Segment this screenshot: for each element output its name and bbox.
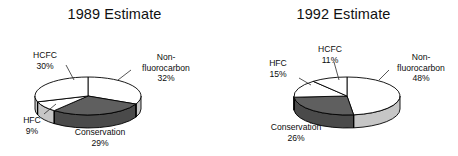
callout-label-line2: fluorocarbon [386, 63, 456, 74]
callout-percent: 26% [253, 133, 339, 144]
callout-conservation-1992: Conservation 26% [253, 122, 339, 143]
callout-label: HFC [12, 115, 52, 126]
callout-percent: 29% [57, 138, 143, 149]
callout-percent: 48% [386, 73, 456, 84]
callout-percent: 15% [258, 69, 298, 80]
callout-label: HFC [258, 58, 298, 69]
chart-panel-1992: 1992 Estimate HCFC 11% HFC 15% Non- fluo… [229, 0, 458, 156]
callout-label: Conservation [253, 122, 339, 133]
callout-hcfc-1992: HCFC 11% [306, 44, 354, 65]
callout-percent: 32% [131, 73, 201, 84]
callout-leader-line [118, 70, 131, 80]
callout-label-line1: Non- [386, 52, 456, 63]
callout-hcfc-1989: HCFC 30% [21, 50, 69, 71]
callout-non-fluorocarbon-1992: Non- fluorocarbon 48% [386, 52, 456, 84]
callout-label-line2: fluorocarbon [131, 63, 201, 74]
callout-percent: 30% [21, 61, 69, 72]
callout-label: HCFC [306, 44, 354, 55]
callout-percent: 9% [12, 126, 52, 137]
callout-hfc-1992: HFC 15% [258, 58, 298, 79]
chart-panel-1989: 1989 Estimate HCFC 30% Non- fluorocarbon… [0, 0, 229, 156]
callout-hfc-1989: HFC 9% [12, 115, 52, 136]
callout-conservation-1989: Conservation 29% [57, 127, 143, 148]
callout-label: Conservation [57, 127, 143, 138]
two-pie-chart-figure: 1989 Estimate HCFC 30% Non- fluorocarbon… [0, 0, 458, 156]
callout-percent: 11% [306, 55, 354, 66]
callout-label: HCFC [21, 50, 69, 61]
callout-non-fluorocarbon-1989: Non- fluorocarbon 32% [131, 52, 201, 84]
callout-label-line1: Non- [131, 52, 201, 63]
